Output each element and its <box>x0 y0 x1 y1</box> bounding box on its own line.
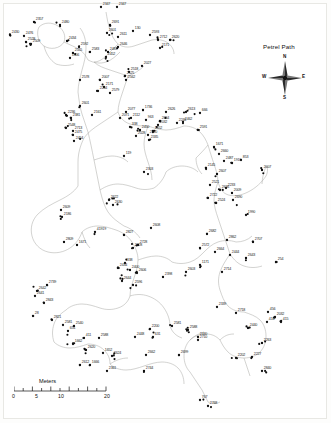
point-label: 2555 <box>75 49 82 53</box>
point-label: 2027 <box>144 62 151 66</box>
point-label: 2607 <box>219 170 226 174</box>
point-label: 2862 <box>229 236 236 240</box>
data-point <box>130 126 132 128</box>
data-point <box>159 47 161 49</box>
data-point <box>185 328 187 330</box>
data-point <box>83 348 85 350</box>
data-point <box>112 204 114 206</box>
point-label: 2588 <box>190 326 197 330</box>
data-point <box>123 234 125 236</box>
point-label: 2450 <box>142 126 149 130</box>
data-point <box>131 243 133 245</box>
scale-tick-label: 20 <box>104 393 110 399</box>
data-point <box>96 90 98 92</box>
data-point <box>171 325 173 327</box>
scale-bar-ruler <box>14 386 114 396</box>
point-label: 2347 <box>119 3 126 7</box>
data-point <box>125 79 127 81</box>
data-point <box>258 343 260 345</box>
point-label: 2588 <box>101 334 108 338</box>
data-point <box>198 129 200 131</box>
point-label: 2381 <box>73 114 80 118</box>
data-point <box>105 49 107 51</box>
point-label: 2707 <box>255 238 262 242</box>
data-point <box>43 302 45 304</box>
point-label: 411 <box>86 334 91 338</box>
point-label: 415 <box>283 318 289 322</box>
compass-east-label: E <box>302 74 305 79</box>
data-point <box>148 139 150 141</box>
point-label: 2335 <box>151 136 158 140</box>
compass-west-label: W <box>262 74 266 79</box>
point-label: 2593 <box>152 31 159 35</box>
map-legend: Petrel Path N S W E <box>250 38 320 110</box>
point-label: 2430 <box>12 31 19 35</box>
point-label: 416 <box>269 318 275 322</box>
data-point <box>132 30 134 32</box>
data-point <box>66 343 68 345</box>
data-point <box>149 34 151 36</box>
point-label: 456 <box>270 308 276 312</box>
point-label: 2303 <box>146 168 153 172</box>
point-label: 2227 <box>254 353 261 357</box>
data-point <box>209 184 211 186</box>
compass-south-label: S <box>283 95 286 100</box>
data-point <box>156 36 158 38</box>
data-point <box>218 153 220 155</box>
point-label: 2578 <box>82 76 89 80</box>
scale-bar-title: Meters <box>39 378 56 384</box>
point-label: 2768 <box>210 402 217 406</box>
data-point <box>230 162 232 164</box>
data-point <box>221 271 223 273</box>
data-point <box>214 148 216 150</box>
data-point <box>145 354 147 356</box>
point-label: 2699 <box>181 351 188 355</box>
point-label: 2202 <box>238 354 245 358</box>
data-point <box>85 352 87 354</box>
data-point <box>218 188 220 190</box>
point-label: 1736 <box>145 106 152 110</box>
data-point <box>82 337 84 339</box>
point-label: 2809 <box>66 238 73 242</box>
data-point <box>260 167 262 169</box>
point-label: 2664 <box>217 248 224 252</box>
point-label: 1990 <box>248 211 255 215</box>
point-label: 2642 <box>39 287 46 291</box>
point-label: 2434 <box>120 264 127 268</box>
point-label: 666 <box>202 109 208 113</box>
point-label: 2339 <box>219 303 226 307</box>
data-point <box>111 32 113 34</box>
point-label: 2601 <box>109 29 116 33</box>
point-label: 2562 <box>128 76 135 80</box>
data-point <box>79 364 81 366</box>
point-label: 2475 <box>75 131 82 135</box>
data-point <box>50 318 52 320</box>
data-point <box>247 327 249 329</box>
point-label: 1662 <box>75 340 82 344</box>
data-point <box>94 231 96 233</box>
data-point <box>135 284 137 286</box>
point-label: 2572 <box>202 244 209 248</box>
data-point <box>129 269 131 271</box>
point-label: 2524 <box>218 199 225 203</box>
data-point <box>137 128 139 130</box>
point-label: 2690 <box>235 196 242 200</box>
point-label: 254 <box>278 258 284 262</box>
data-point <box>129 287 131 289</box>
data-point <box>59 215 61 217</box>
figure-root: 2357243024762528250924802434259225551806… <box>0 0 331 423</box>
point-label: 2540 <box>76 322 83 326</box>
point-label: 2739 <box>49 281 56 285</box>
data-point <box>46 284 48 286</box>
point-label: 1910 <box>234 159 241 163</box>
point-label: 2200 <box>152 325 159 329</box>
data-point <box>108 34 110 36</box>
point-label: 2007 <box>264 166 271 170</box>
data-point <box>216 173 218 175</box>
data-point <box>245 259 247 261</box>
point-label: 338 <box>132 123 138 127</box>
data-point <box>121 274 123 276</box>
data-point <box>124 75 126 77</box>
data-point <box>176 122 178 124</box>
point-label: 2509 <box>33 40 40 44</box>
